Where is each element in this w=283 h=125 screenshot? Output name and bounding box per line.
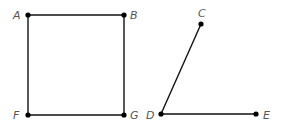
point-b bbox=[121, 12, 126, 17]
label-g: G bbox=[130, 109, 139, 122]
point-a bbox=[25, 12, 30, 17]
angle-figure: C D E bbox=[146, 7, 270, 122]
point-f bbox=[25, 112, 30, 117]
label-a: A bbox=[12, 9, 21, 22]
point-c bbox=[198, 21, 203, 26]
label-e: E bbox=[263, 109, 270, 122]
label-d: D bbox=[146, 109, 154, 122]
point-e bbox=[253, 111, 258, 116]
square-figure: A B G F bbox=[12, 9, 139, 122]
label-f: F bbox=[13, 109, 20, 122]
label-c: C bbox=[198, 7, 206, 20]
point-d bbox=[158, 111, 163, 116]
segment-dc bbox=[161, 24, 201, 114]
point-g bbox=[121, 112, 126, 117]
geometry-diagram: A B G F C D E bbox=[0, 0, 283, 125]
label-b: B bbox=[130, 9, 138, 22]
